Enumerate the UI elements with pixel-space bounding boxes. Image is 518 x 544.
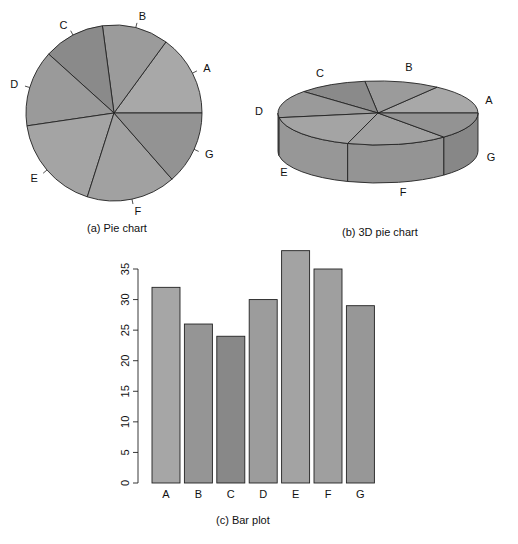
y-tick-label-5: 5 bbox=[119, 449, 131, 455]
pie-chart-2d: ABCDEFG bbox=[10, 10, 213, 217]
pie-label-tick bbox=[194, 149, 199, 151]
y-tick-label-30: 30 bbox=[119, 293, 131, 305]
y-tick-label-35: 35 bbox=[119, 263, 131, 275]
pie-label-tick bbox=[132, 199, 133, 204]
pie3d-label-D: D bbox=[255, 105, 263, 117]
pie-chart-caption: (a) Pie chart bbox=[87, 222, 147, 234]
bar-G bbox=[346, 306, 374, 483]
bar-A bbox=[152, 287, 180, 483]
x-tick-label-D: D bbox=[259, 488, 267, 500]
bar-B bbox=[184, 324, 212, 483]
bar-plot-caption: (c) Bar plot bbox=[216, 514, 270, 526]
bar-D bbox=[249, 300, 277, 483]
pie-label-A: A bbox=[203, 62, 211, 74]
pie3d-label-B: B bbox=[405, 61, 412, 73]
y-tick-label-10: 10 bbox=[119, 416, 131, 428]
pie3d-label-A: A bbox=[485, 94, 493, 106]
pie-label-G: G bbox=[205, 148, 214, 160]
pie-label-D: D bbox=[10, 78, 18, 90]
pie-label-E: E bbox=[30, 172, 37, 184]
x-tick-label-C: C bbox=[227, 488, 235, 500]
x-tick-label-E: E bbox=[292, 488, 299, 500]
y-tick-label-25: 25 bbox=[119, 324, 131, 336]
pie-label-tick bbox=[192, 71, 196, 73]
chart-canvas: ABCDEFG (a) Pie chart ABCDEFG (b) 3D pie… bbox=[0, 0, 518, 544]
bar-F bbox=[314, 269, 342, 483]
pie-label-B: B bbox=[139, 10, 146, 22]
pie3d-label-F: F bbox=[400, 186, 407, 198]
pie-label-tick bbox=[136, 23, 137, 28]
pie3d-chart-caption: (b) 3D pie chart bbox=[342, 226, 418, 238]
pie-label-F: F bbox=[134, 205, 141, 217]
pie-label-tick bbox=[25, 86, 30, 87]
x-tick-label-F: F bbox=[325, 488, 332, 500]
bar-E bbox=[282, 251, 310, 483]
pie-label-C: C bbox=[59, 19, 67, 31]
x-tick-label-A: A bbox=[162, 488, 170, 500]
pie3d-label-C: C bbox=[316, 67, 324, 79]
x-tick-label-G: G bbox=[356, 488, 365, 500]
bar-C bbox=[217, 336, 245, 483]
y-tick-label-0: 0 bbox=[119, 480, 131, 486]
x-tick-label-B: B bbox=[195, 488, 202, 500]
pie-chart-3d: ABCDEFG bbox=[255, 61, 495, 198]
pie-label-tick bbox=[71, 31, 73, 35]
y-tick-label-20: 20 bbox=[119, 355, 131, 367]
y-tick-label-15: 15 bbox=[119, 385, 131, 397]
bar-plot: 05101520253035ABCDEFG bbox=[119, 251, 374, 500]
pie3d-label-G: G bbox=[487, 151, 496, 163]
pie3d-label-E: E bbox=[280, 166, 287, 178]
pie-label-tick bbox=[43, 170, 47, 173]
